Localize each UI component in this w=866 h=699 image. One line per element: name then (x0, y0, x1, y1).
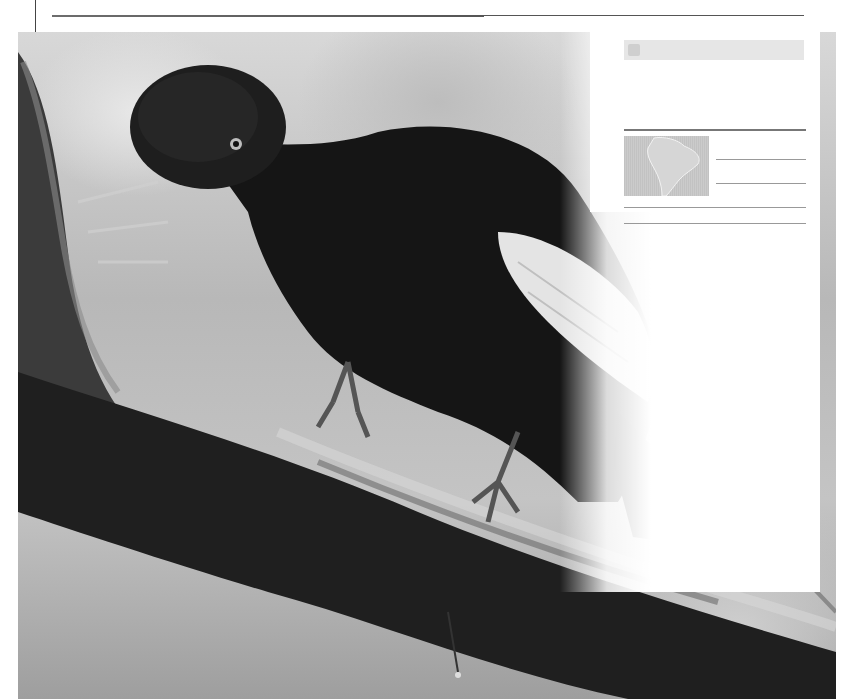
stat-divider (716, 183, 806, 184)
header-rule-right (484, 15, 804, 16)
latin-name-bar (624, 40, 804, 60)
habitat-divider-bottom (624, 223, 806, 224)
south-america-map-icon (624, 136, 709, 196)
range-map (624, 136, 709, 196)
header-rule (52, 15, 484, 17)
bird-silhouette-icon (628, 44, 640, 56)
title-rule (624, 129, 806, 131)
page-edge-line-left (35, 0, 36, 33)
stat-divider (716, 159, 806, 160)
habitat-row (624, 210, 814, 220)
habitat-divider-top (624, 207, 806, 208)
